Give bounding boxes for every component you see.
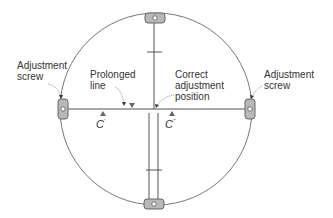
correct-position-leader (157, 95, 174, 106)
right-adjustment-screw (245, 99, 255, 119)
prolonged-line-label: Prolonged line (90, 69, 136, 91)
left-adjustment-screw (58, 99, 68, 119)
c-prime-marker (100, 111, 106, 116)
prolonged-line-marker (129, 103, 135, 108)
correct-position-label: Correct adjustment position (175, 69, 224, 102)
right-screw-label: Adjustment screw (264, 69, 314, 91)
right-screw-arrowhead (250, 95, 254, 99)
correct-position-arrowhead (155, 104, 159, 108)
left-screw-arrowhead (59, 95, 63, 99)
prolonged-line-arrowhead (122, 102, 126, 106)
bottom-adjustment-screw (144, 199, 164, 209)
c-double-prime-marker (169, 111, 175, 116)
c-double-prime-label: C'' (165, 118, 175, 130)
c-prime-label: C' (96, 118, 105, 130)
left-screw-label: Adjustment screw (17, 60, 67, 82)
diagram-canvas (0, 0, 333, 218)
right-screw-leader (252, 86, 262, 97)
top-adjustment-screw (145, 13, 165, 23)
